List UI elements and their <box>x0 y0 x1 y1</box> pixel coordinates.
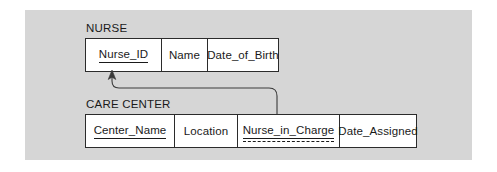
attribute-cell-date-assigned: Date_Assigned <box>340 115 416 147</box>
attribute-cell-location: Location <box>175 115 238 147</box>
schema-diagram: NURSE Nurse_ID Name Date_of_Birth CARE C… <box>0 0 497 172</box>
attribute-label-date-assigned: Date_Assigned <box>338 125 417 138</box>
attribute-label-center-name: Center_Name <box>94 124 167 139</box>
attribute-label-location: Location <box>184 125 228 138</box>
attribute-cell-date-of-birth: Date_of_Birth <box>208 39 278 71</box>
attribute-cell-nurse-id: Nurse_ID <box>86 39 162 71</box>
attribute-label-nurse-in-charge: Nurse_in_Charge <box>243 124 335 139</box>
attribute-label-name: Name <box>169 49 200 62</box>
entity-caption-care-center: CARE CENTER <box>86 98 171 110</box>
attribute-cell-nurse-in-charge: Nurse_in_Charge <box>238 115 340 147</box>
attribute-cell-center-name: Center_Name <box>86 115 175 147</box>
entity-table-nurse: Nurse_ID Name Date_of_Birth <box>85 38 279 72</box>
entity-caption-nurse: NURSE <box>86 22 127 34</box>
attribute-label-date-of-birth: Date_of_Birth <box>207 49 279 62</box>
entity-table-care-center: Center_Name Location Nurse_in_Charge Dat… <box>85 114 417 148</box>
attribute-label-nurse-id: Nurse_ID <box>99 48 148 63</box>
attribute-cell-name: Name <box>162 39 208 71</box>
